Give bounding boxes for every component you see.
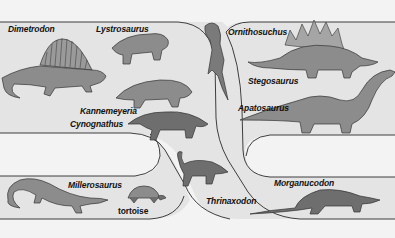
label-stegosaurus: Stegosaurus: [248, 76, 298, 86]
label-lystrosaurus: Lystrosaurus: [96, 24, 149, 34]
label-kannemeyeria: Kannemeyeria: [80, 106, 137, 116]
label-cynognathus: Cynognathus: [70, 119, 123, 129]
label-dimetrodon: Dimetrodon: [8, 24, 55, 34]
label-morganucodon: Morganucodon: [274, 178, 334, 188]
label-apatosaurus: Apatosaurus: [238, 103, 289, 113]
phylogeny-diagram: [0, 0, 395, 238]
label-ornithosuchus: Ornithosuchus: [228, 27, 287, 37]
label-thrinaxodon: Thrinaxodon: [206, 196, 256, 206]
label-tortoise: tortoise: [118, 206, 148, 216]
label-millerosaurus: Millerosaurus: [68, 180, 122, 190]
